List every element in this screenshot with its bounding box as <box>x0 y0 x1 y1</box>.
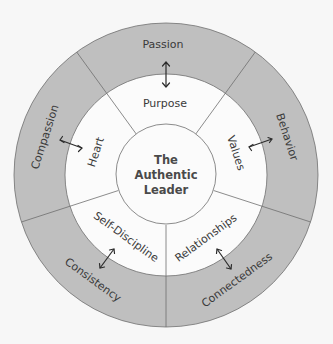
outer-label-passion: Passion <box>142 38 183 51</box>
middle-label-purpose: Purpose <box>143 97 187 110</box>
center-line-1: The <box>154 153 178 167</box>
center-line-3: Leader <box>144 183 189 197</box>
center-line-2: Authentic <box>134 168 197 182</box>
authentic-leader-diagram: The Authentic Leader Passion Purpose Val… <box>0 0 333 344</box>
